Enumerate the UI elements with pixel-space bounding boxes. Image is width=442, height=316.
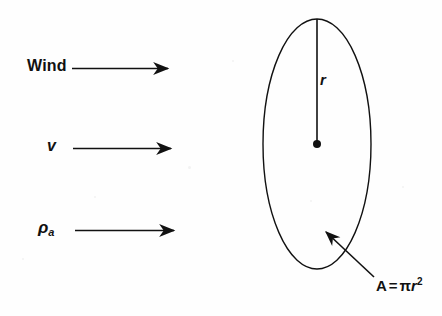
pi-symbol: π — [400, 277, 411, 294]
area-callout-arrow — [326, 232, 374, 277]
area-formula-label: A=πr2 — [376, 277, 423, 293]
diagram-canvas — [0, 0, 442, 316]
air-density-label: ρa — [38, 219, 55, 238]
wind-label: Wind — [27, 58, 67, 74]
radius-label: r — [320, 72, 326, 87]
equals-sign: = — [387, 277, 400, 294]
area-symbol: A — [376, 277, 387, 294]
exponent: 2 — [417, 276, 423, 287]
wind-swept-area-diagram: Wind v ρa r A=πr2 — [0, 0, 442, 316]
disc-center-dot — [313, 140, 321, 148]
velocity-label: v — [47, 138, 56, 154]
air-density-subscript: a — [48, 226, 54, 238]
air-density-symbol: ρ — [38, 218, 48, 237]
